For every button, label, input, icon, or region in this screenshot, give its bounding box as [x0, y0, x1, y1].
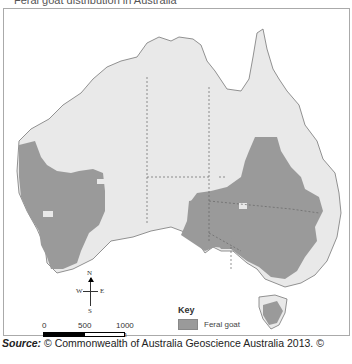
- source-caption: Source: © Commonwealth of Australia Geos…: [2, 337, 324, 349]
- scale-label-500: 500: [78, 321, 91, 330]
- compass-s: S: [88, 307, 92, 315]
- compass-e: E: [100, 287, 104, 295]
- compass-rose: N W E S: [76, 269, 106, 319]
- key-item-label: Feral goat: [204, 320, 240, 329]
- key-item-feral-goat: Feral goat: [178, 319, 268, 330]
- key-title: Key: [178, 305, 268, 315]
- compass-w: W: [76, 287, 83, 295]
- north-arrow-icon: [88, 277, 94, 282]
- source-label: Source:: [2, 337, 41, 349]
- map-key: Key Feral goat: [178, 305, 268, 330]
- scale-label-0: 0: [42, 321, 46, 330]
- map-frame: N W E S 0 500 1000 km Key Feral goat: [3, 8, 350, 336]
- australia-map: [4, 9, 349, 335]
- header-text: Feral goat distribution in Australia: [14, 0, 177, 6]
- compass-n: N: [87, 269, 92, 277]
- source-text: © Commonwealth of Australia Geoscience A…: [41, 337, 324, 349]
- feral-goat-swatch: [178, 319, 198, 330]
